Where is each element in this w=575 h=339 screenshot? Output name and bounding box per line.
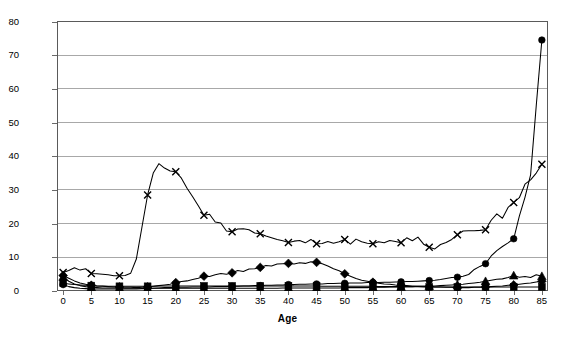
y-tick-label: 50	[0, 118, 19, 128]
x-tick-mark	[486, 291, 487, 295]
x-axis-title: Age	[0, 313, 575, 324]
x-tick-label: 45	[302, 296, 332, 306]
x-tick-label: 65	[414, 296, 444, 306]
gridline	[58, 88, 547, 89]
x-tick-label: 20	[161, 296, 191, 306]
x-tick-label: 50	[330, 296, 360, 306]
x-tick-label: 5	[76, 296, 106, 306]
y-tick-label: 20	[0, 219, 19, 229]
x-tick-mark	[514, 291, 515, 295]
y-tick-label: 70	[0, 50, 19, 60]
y-tick-label: 10	[0, 252, 19, 262]
gridline	[58, 55, 547, 56]
x-tick-mark	[176, 291, 177, 295]
gridline	[58, 122, 547, 123]
y-tick-label: 0	[0, 286, 19, 296]
gridline	[58, 257, 547, 258]
x-tick-label: 30	[217, 296, 247, 306]
x-tick-label: 60	[386, 296, 416, 306]
x-tick-mark	[260, 291, 261, 295]
gridline	[58, 156, 547, 157]
x-tick-mark	[401, 291, 402, 295]
x-tick-mark	[373, 291, 374, 295]
x-tick-mark	[345, 291, 346, 295]
x-tick-label: 85	[527, 296, 557, 306]
x-tick-label: 75	[471, 296, 501, 306]
x-tick-mark	[148, 291, 149, 295]
x-tick-mark	[429, 291, 430, 295]
y-tick-mark	[52, 291, 57, 292]
x-tick-mark	[232, 291, 233, 295]
x-tick-label: 40	[273, 296, 303, 306]
gridline	[58, 223, 547, 224]
y-tick-label: 80	[0, 17, 19, 27]
x-tick-mark	[204, 291, 205, 295]
x-tick-mark	[91, 291, 92, 295]
x-tick-label: 70	[442, 296, 472, 306]
gridline	[58, 189, 547, 190]
chart-figure: 01020304050607080 0510152025303540455055…	[0, 0, 575, 339]
x-tick-label: 10	[104, 296, 134, 306]
plot-area	[57, 21, 548, 291]
gridlines	[58, 22, 547, 290]
x-tick-mark	[63, 291, 64, 295]
y-tick-label: 60	[0, 84, 19, 94]
x-tick-label: 55	[358, 296, 388, 306]
x-tick-mark	[542, 291, 543, 295]
y-tick-label: 30	[0, 185, 19, 195]
y-tick-label: 40	[0, 151, 19, 161]
x-tick-mark	[317, 291, 318, 295]
x-tick-label: 15	[133, 296, 163, 306]
x-tick-mark	[119, 291, 120, 295]
x-tick-label: 80	[499, 296, 529, 306]
x-tick-mark	[457, 291, 458, 295]
x-tick-label: 25	[189, 296, 219, 306]
x-tick-label: 0	[48, 296, 78, 306]
x-tick-mark	[288, 291, 289, 295]
x-tick-label: 35	[245, 296, 275, 306]
